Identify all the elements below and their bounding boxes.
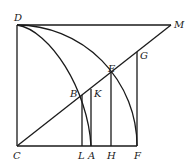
label-F: F [133, 150, 142, 161]
label-B: B [69, 88, 77, 99]
label-D: D [13, 12, 22, 23]
label-K: K [93, 88, 102, 99]
label-E: E [107, 63, 116, 74]
segment-CM [17, 25, 171, 146]
label-G: G [140, 50, 148, 61]
geometry-diagram: D M G E B K C L A H F [0, 0, 196, 165]
label-L: L [77, 150, 85, 161]
label-A: A [87, 150, 95, 161]
label-C: C [13, 150, 21, 161]
label-H: H [106, 150, 116, 161]
label-M: M [173, 19, 185, 30]
arc-DF [17, 25, 137, 146]
